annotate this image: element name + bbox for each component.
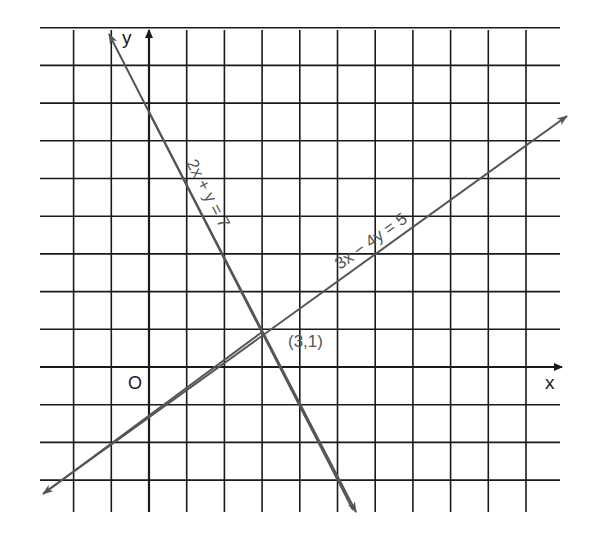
x-axis-label: x — [545, 372, 555, 393]
origin-label: O — [128, 373, 142, 393]
intersection-label: (3,1) — [288, 332, 323, 351]
coordinate-plane: y x O (3,1) 2x + y = 7 3x − 4y = 5 — [0, 0, 592, 548]
line-2x-plus-y-eq-7-tail — [149, 112, 356, 512]
line-3x-minus-4y-eq-5-tail — [43, 332, 262, 494]
line2-equation-label: 3x − 4y = 5 — [331, 209, 411, 273]
y-axis-label: y — [122, 27, 132, 48]
